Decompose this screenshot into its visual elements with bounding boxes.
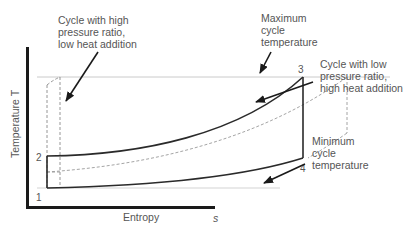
ts-diagram: Temperature T Entropy s 1 2 3 4 Cycle wi… [0,0,413,235]
svg-text:high heat addition: high heat addition [320,82,403,94]
x-axis-label: Entropy [123,211,160,223]
main-cycle [47,77,303,188]
svg-text:Cycle with high: Cycle with high [58,14,129,26]
svg-text:low heat addition: low heat addition [58,38,137,50]
annotation-low-pressure: Cycle with low pressure ratio, high heat… [256,58,403,102]
state-point-3: 3 [298,64,304,75]
x-axis-symbol: s [213,212,219,224]
annotation-min-temperature: Minimum cycle temperature [264,135,369,183]
y-axis-label: Temperature T [9,89,21,158]
svg-text:cycle: cycle [312,147,336,159]
state-point-1: 1 [36,192,42,203]
svg-text:temperature: temperature [312,159,369,171]
svg-text:pressure ratio,: pressure ratio, [58,26,125,38]
svg-text:Minimum: Minimum [312,135,355,147]
svg-text:temperature: temperature [261,36,318,48]
annotation-high-pressure: Cycle with high pressure ratio, low heat… [58,14,137,101]
svg-text:pressure ratio,: pressure ratio, [320,70,387,82]
svg-text:Cycle with low: Cycle with low [320,58,387,70]
svg-text:Maximum: Maximum [261,12,307,24]
heat-addition-curve [47,77,303,156]
state-point-2: 2 [36,152,42,163]
arrow-icon [260,52,271,73]
arrow-icon [256,82,313,102]
svg-text:cycle: cycle [261,24,285,36]
arrow-icon [66,52,98,101]
annotation-max-temperature: Maximum cycle temperature [260,12,318,73]
